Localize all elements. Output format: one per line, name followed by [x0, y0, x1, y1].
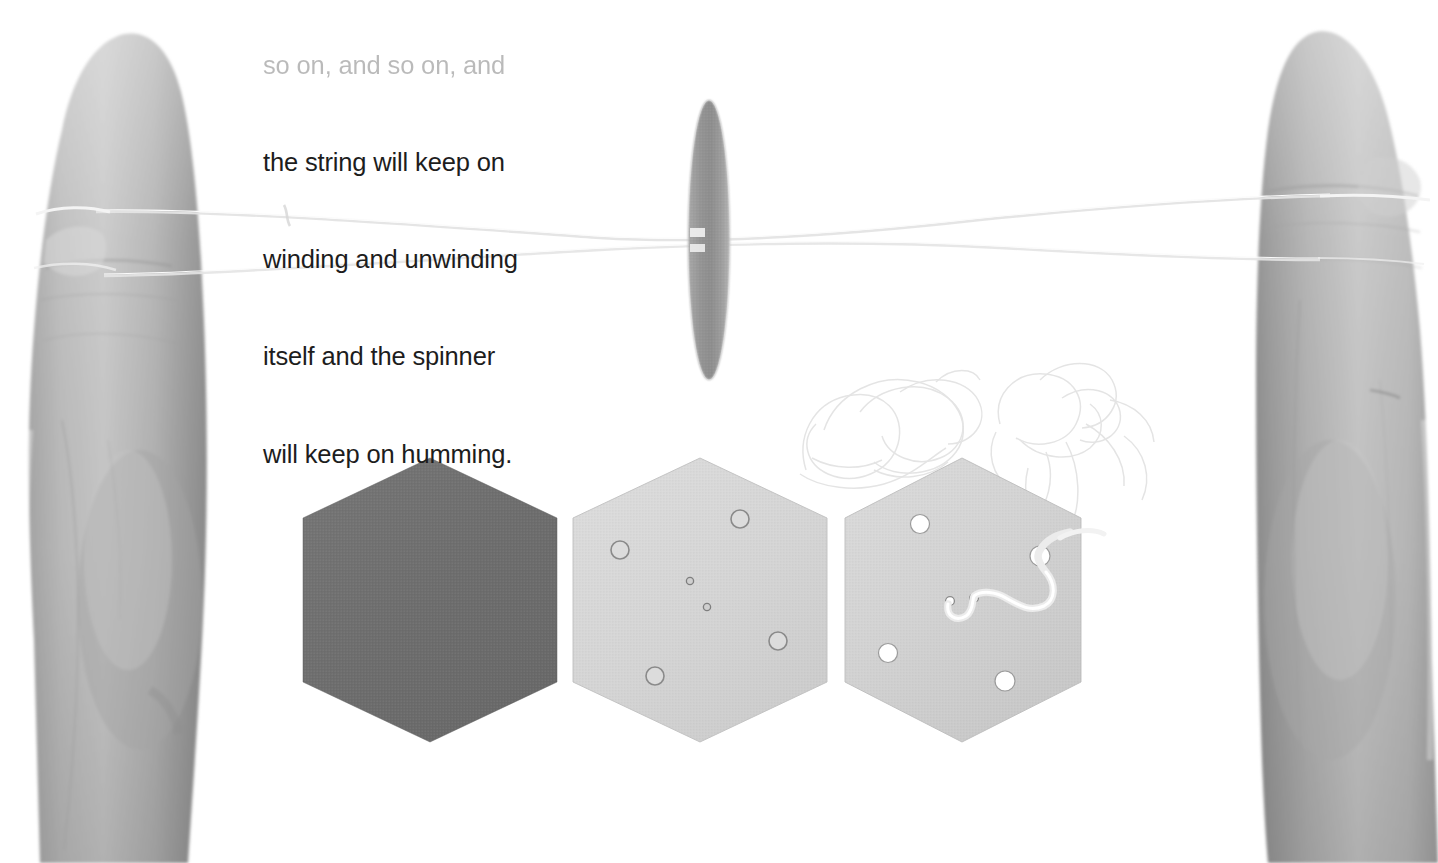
- caption-line-4: will keep on humming.: [263, 438, 623, 470]
- instruction-caption: so on, and so on, and the string will ke…: [263, 0, 623, 535]
- caption-line-3: itself and the spinner: [263, 340, 623, 372]
- caption-line-2: winding and unwinding: [263, 243, 623, 275]
- photo-scene: [0, 0, 1438, 863]
- spinning-hexagon-disc: [688, 100, 730, 380]
- spinner-string-slot: [690, 228, 705, 237]
- caption-line-clipped: so on, and so on, and: [263, 49, 623, 81]
- caption-line-1: the string will keep on: [263, 146, 623, 178]
- page-root: so on, and so on, and the string will ke…: [0, 0, 1438, 863]
